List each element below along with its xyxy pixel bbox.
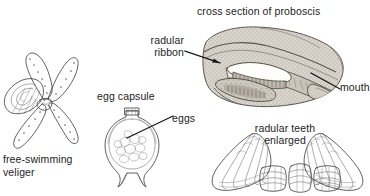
radular-ribbon-label-line2: ribbon — [140, 46, 184, 58]
radular-ribbon-label-line1: radular — [140, 34, 184, 46]
eggs-callout-label: eggs — [172, 112, 195, 124]
proboscis-caption: cross section of proboscis — [197, 5, 320, 17]
veliger-illustration — [0, 40, 90, 155]
radular-teeth-illustration — [205, 128, 370, 196]
egg-capsule-caption: egg capsule — [97, 90, 155, 102]
veliger-caption-line1: free-swimming — [3, 153, 73, 165]
mouth-callout-label: mouth — [340, 81, 370, 93]
radular-ribbon-leader-line — [184, 46, 226, 70]
biology-figure-plate: free-swimming veliger — [0, 0, 370, 196]
veliger-caption-line2: veliger — [3, 166, 35, 178]
